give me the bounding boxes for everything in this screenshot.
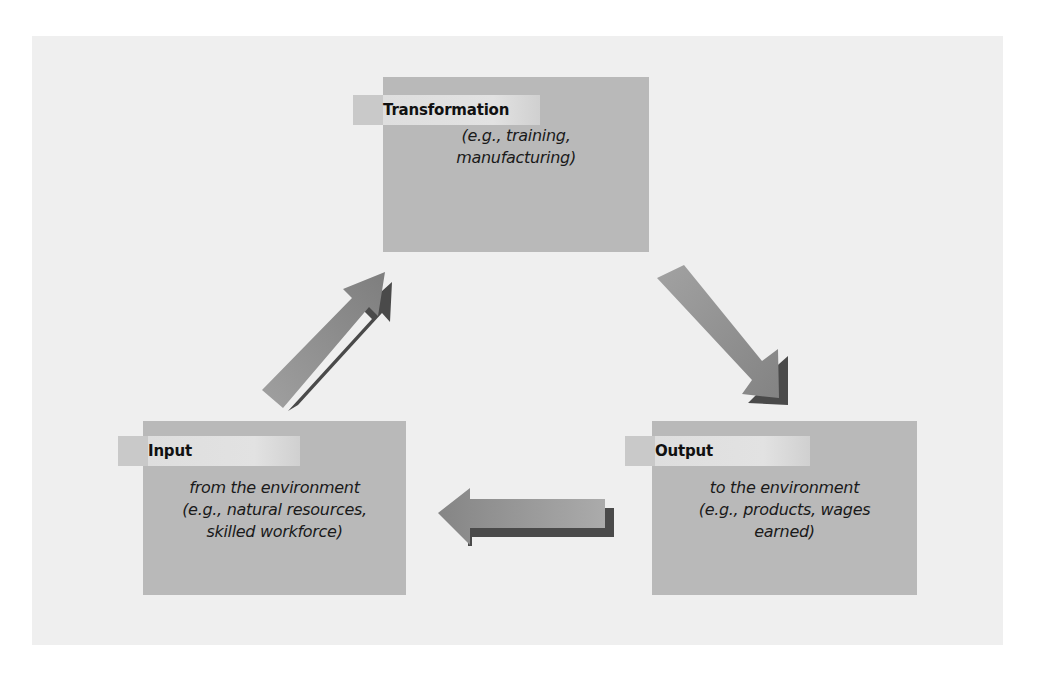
arrow-left-icon	[438, 488, 614, 546]
arrows-layer	[0, 0, 1043, 673]
arrow-up-right-icon	[262, 272, 392, 411]
arrow-down-right-icon	[657, 265, 788, 405]
